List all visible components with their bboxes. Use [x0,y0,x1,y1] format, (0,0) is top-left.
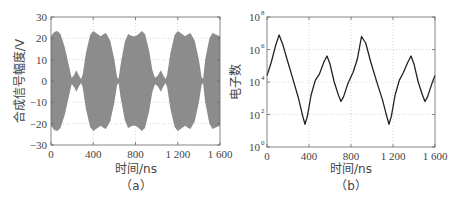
x-tick-label: 800 [343,150,360,162]
y-tick-exponent: 6 [261,42,265,50]
y-tick-label: 10 [36,54,48,66]
y-tick-exponent: 8 [261,9,265,17]
x-tick-label: 1 200 [381,150,406,162]
y-tick-label: 10 [249,11,261,23]
x-tick-label: 1 200 [165,148,190,160]
chart-b-y-tick-labels: 100102104106108 [249,9,265,153]
chart-a-caption: （a） [120,179,151,193]
chart-a-y-axis-label: 合成信号幅度/V [12,38,27,123]
x-tick-label: 1 600 [423,150,448,162]
x-tick-label: 1 600 [208,148,233,160]
y-tick-label: 10 [249,109,261,121]
chart-b-electron-count: 100102104106108 04008001 2001 600 电子数 时间… [228,9,448,193]
x-tick-label: 0 [264,150,270,162]
y-tick-label: 10 [249,141,261,153]
chart-b-gridlines [267,17,435,147]
chart-a-y-tick-labels: 3020100−10−20−30 [30,11,48,151]
y-tick-label: −30 [30,139,48,151]
chart-b-y-axis-label: 电子数 [228,64,243,100]
y-tick-label: 10 [249,44,261,56]
x-tick-label: 0 [48,148,54,160]
x-tick-label: 400 [85,148,102,160]
chart-a-signal-envelope [51,31,220,131]
chart-a-signal-amplitude: 3020100−10−20−30 04008001 2001 600 合成信号幅… [12,11,233,193]
chart-b-x-tick-labels: 04008001 2001 600 [264,150,448,162]
chart-b-x-axis-label: 时间/ns [330,162,372,176]
y-tick-label: 30 [36,11,48,23]
y-tick-exponent: 0 [261,139,265,147]
y-tick-exponent: 2 [261,107,265,115]
y-tick-label: 10 [249,76,261,88]
x-tick-label: 800 [127,148,144,160]
chart-a-x-tick-labels: 04008001 2001 600 [48,148,233,160]
y-tick-label: −20 [30,118,48,130]
figure-canvas: 3020100−10−20−30 04008001 2001 600 合成信号幅… [0,0,458,202]
y-tick-exponent: 4 [261,74,265,82]
y-tick-label: 0 [42,75,48,87]
chart-a-x-axis-label: 时间/ns [115,162,157,176]
y-tick-label: −10 [30,96,48,108]
y-tick-label: 20 [36,32,48,44]
chart-b-caption: （b） [335,179,367,193]
x-tick-label: 400 [301,150,318,162]
